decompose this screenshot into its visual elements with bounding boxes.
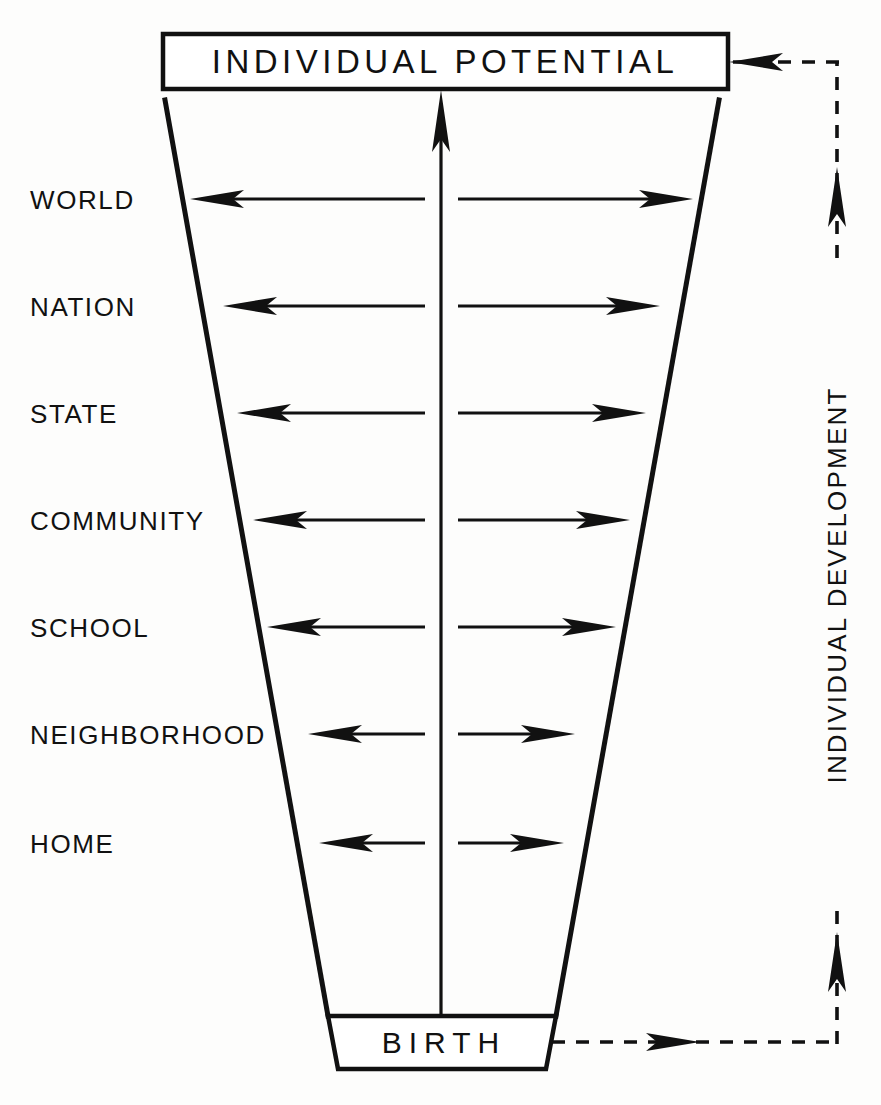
level-row-neighborhood: NEIGHBORHOOD	[30, 720, 575, 750]
level-row-community: COMMUNITY	[30, 506, 630, 536]
feedback-upper-arrow-head	[828, 167, 846, 227]
funnel-right-side	[556, 100, 719, 1016]
level-label-neighborhood: NEIGHBORHOOD	[30, 720, 266, 750]
birth-box: BIRTH	[328, 1016, 556, 1069]
level-label-school: SCHOOL	[30, 613, 149, 643]
level-label-community: COMMUNITY	[30, 506, 205, 536]
individual-potential-label: INDIVIDUAL POTENTIAL	[212, 43, 679, 80]
level-label-home: HOME	[30, 829, 114, 859]
birth-label: BIRTH	[382, 1026, 506, 1059]
expanding-horizons-funnel-diagram: INDIVIDUAL POTENTIAL WORLD NATION	[0, 0, 881, 1105]
individual-development-label: INDIVIDUAL DEVELOPMENT	[822, 386, 852, 783]
level-row-state: STATE	[30, 399, 646, 429]
level-row-school: SCHOOL	[30, 613, 616, 643]
level-label-nation: NATION	[30, 292, 136, 322]
level-row-world: WORLD	[30, 185, 693, 215]
level-row-nation: NATION	[30, 292, 660, 322]
individual-potential-box: INDIVIDUAL POTENTIAL	[163, 34, 728, 89]
funnel-left-side	[165, 100, 328, 1016]
feedback-top-arrow-head	[729, 53, 783, 71]
central-growth-arrow	[432, 90, 450, 1015]
diagram-canvas: INDIVIDUAL POTENTIAL WORLD NATION	[0, 0, 881, 1105]
level-label-state: STATE	[30, 399, 118, 429]
level-label-world: WORLD	[30, 185, 135, 215]
